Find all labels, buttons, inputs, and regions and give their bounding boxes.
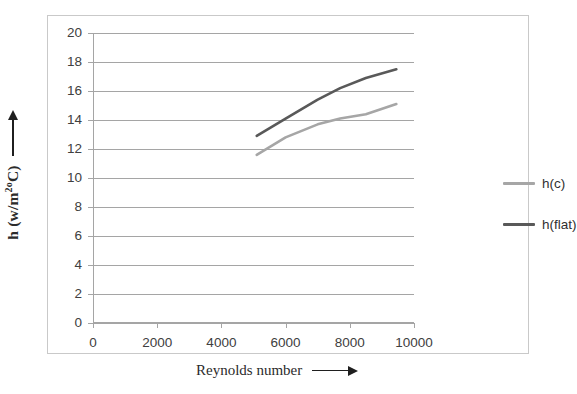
y-axis-title: h (w/m2oC) bbox=[0, 60, 30, 290]
right-arrow-icon bbox=[312, 366, 358, 376]
x-tick-label: 8000 bbox=[335, 336, 365, 350]
series-line-hflat bbox=[257, 69, 397, 136]
legend-label: h(flat) bbox=[542, 217, 577, 232]
y-axis-title-tail: C) bbox=[5, 165, 22, 182]
y-tick-label: 10 bbox=[67, 171, 82, 185]
chart-legend: h(c)h(flat) bbox=[503, 176, 577, 232]
up-arrow-icon bbox=[8, 110, 18, 156]
legend-entry[interactable]: h(flat) bbox=[503, 217, 577, 232]
y-axis-title-superscript: 2o bbox=[3, 182, 14, 192]
series-layer bbox=[93, 33, 414, 323]
y-tick-label: 20 bbox=[67, 26, 82, 40]
y-axis-title-text: h (w/m2oC) bbox=[3, 165, 22, 239]
chart-frame: 024681012141618200200040006000800010000 … bbox=[47, 15, 529, 354]
plot-area: 024681012141618200200040006000800010000 bbox=[93, 33, 414, 323]
y-tick-label: 6 bbox=[74, 229, 82, 243]
y-tick-label: 8 bbox=[74, 200, 82, 214]
legend-entry[interactable]: h(c) bbox=[503, 176, 577, 191]
x-tick-label: 10000 bbox=[395, 336, 433, 350]
x-tick-mark bbox=[286, 323, 287, 328]
legend-label: h(c) bbox=[542, 176, 565, 191]
x-axis-title: Reynolds number bbox=[196, 362, 358, 379]
y-tick-label: 2 bbox=[74, 287, 82, 301]
x-tick-mark bbox=[157, 323, 158, 328]
gridline-y bbox=[93, 323, 414, 324]
legend-swatch-icon bbox=[503, 223, 535, 226]
x-tick-mark bbox=[414, 323, 415, 328]
x-axis-title-text: Reynolds number bbox=[196, 362, 302, 379]
y-tick-label: 4 bbox=[74, 258, 82, 272]
y-tick-label: 12 bbox=[67, 142, 82, 156]
y-tick-label: 18 bbox=[67, 55, 82, 69]
x-tick-label: 4000 bbox=[206, 336, 236, 350]
x-tick-mark bbox=[221, 323, 222, 328]
x-tick-label: 2000 bbox=[142, 336, 172, 350]
y-axis-title-main: h (w/m bbox=[5, 192, 22, 239]
x-tick-mark bbox=[350, 323, 351, 328]
x-tick-label: 6000 bbox=[271, 336, 301, 350]
series-line-hc bbox=[257, 104, 397, 155]
x-tick-mark bbox=[93, 323, 94, 328]
legend-swatch-icon bbox=[503, 182, 535, 185]
y-tick-label: 0 bbox=[74, 316, 82, 330]
y-tick-label: 16 bbox=[67, 84, 82, 98]
y-tick-label: 14 bbox=[67, 113, 82, 127]
x-tick-label: 0 bbox=[89, 336, 97, 350]
